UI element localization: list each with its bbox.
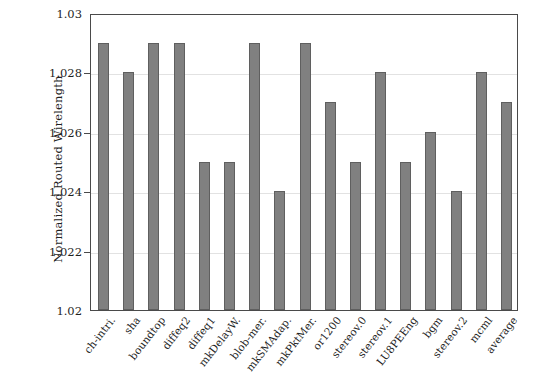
bar [98, 43, 109, 310]
y-axis-title: Normalized Routed Wirelength [51, 19, 65, 319]
bar [325, 102, 336, 310]
y-axis-tick-label: 1.028 [49, 66, 82, 80]
bar [350, 162, 361, 311]
x-axis-tick-label: ch-intri. [81, 314, 117, 355]
x-axis-tick-label: bgm [420, 314, 444, 340]
bar [400, 162, 411, 311]
y-axis-tick-label: 1.03 [56, 7, 82, 21]
y-axis-tick-label: 1.026 [49, 126, 82, 140]
bar [375, 72, 386, 310]
bar [501, 102, 512, 310]
bar [249, 43, 260, 310]
bar [174, 43, 185, 310]
y-axis-tick-label: 1.022 [49, 245, 82, 259]
bar [476, 72, 487, 310]
bar [425, 132, 436, 310]
bar [123, 72, 134, 310]
bar [199, 162, 210, 311]
bar [274, 191, 285, 310]
bar-series [91, 15, 517, 310]
bar [148, 43, 159, 310]
bar-chart-figure: Normalized Routed Wirelength 1.021.0221.… [0, 0, 535, 375]
bar [451, 191, 462, 310]
y-axis-tick-label: 1.024 [49, 185, 82, 199]
bar [224, 162, 235, 311]
x-axis-tick-label: sha [121, 314, 142, 336]
plot-area [90, 14, 518, 311]
bar [300, 43, 311, 310]
y-axis-tick-label: 1.02 [56, 304, 82, 318]
